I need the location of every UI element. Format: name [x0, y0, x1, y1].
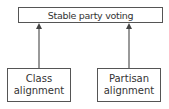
node-class-alignment: Class alignment — [7, 68, 71, 102]
node-label-line2: alignment — [104, 85, 155, 97]
node-label-line1: Partisan — [104, 73, 155, 85]
node-stable-party-voting: Stable party voting — [18, 7, 163, 23]
arrow-right — [126, 23, 132, 68]
arrow-left — [36, 23, 42, 68]
node-partisan-alignment: Partisan alignment — [97, 68, 161, 102]
node-label-line2: alignment — [14, 85, 65, 97]
node-label: Stable party voting — [48, 10, 133, 21]
node-label-line1: Class — [14, 73, 65, 85]
